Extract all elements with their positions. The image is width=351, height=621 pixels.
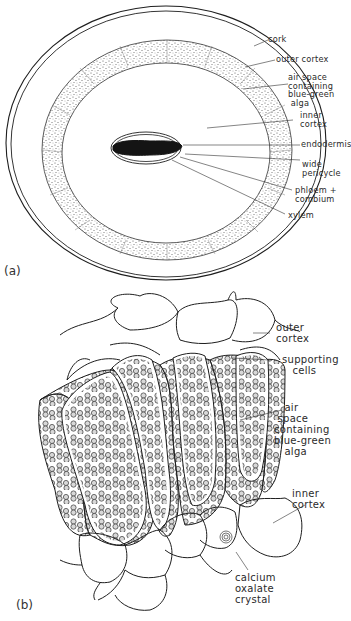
panel-b [39, 292, 305, 611]
label-inner-cortex: inner cortex [300, 111, 327, 128]
label-endodermis: endodermis [301, 140, 351, 149]
calcium-oxalate-crystal [220, 531, 232, 543]
label-xylem: xylem [288, 211, 314, 220]
xylem-core [113, 141, 182, 156]
panel-b-letter: (b) [16, 598, 33, 612]
label-cork: cork [268, 35, 286, 44]
panel-a [6, 6, 326, 280]
label-b-outer-cortex: outer cortex [276, 322, 309, 344]
label-b-inner-cortex: inner cortex [292, 488, 325, 510]
label-wide-pericycle: wide pericycle [302, 160, 341, 177]
label-b-air-space: air space containing blue-green alga [274, 402, 331, 457]
label-outer-cortex: outer cortex [276, 55, 329, 64]
label-air-space: air space containing blue-green alga [288, 73, 334, 107]
label-b-calcium-oxalate: calcium oxalate crystal [235, 572, 276, 605]
panel-a-letter: (a) [4, 264, 21, 278]
label-b-supporting-cells: supporting cells [282, 354, 339, 376]
label-phloem-cambium: phloem + combium [295, 186, 337, 203]
